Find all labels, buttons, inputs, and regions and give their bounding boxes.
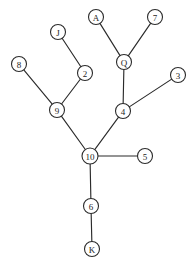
graph-edge-3-4 xyxy=(129,79,171,107)
graph-node-6[interactable]: 6 xyxy=(84,199,99,214)
graph-edge-4-10 xyxy=(95,117,119,150)
graph-edge-Q-4 xyxy=(123,70,124,104)
graph-edge-J-2 xyxy=(62,38,81,66)
node-label-3: 3 xyxy=(176,71,181,81)
node-label-7: 7 xyxy=(153,13,158,23)
node-label-A: A xyxy=(93,13,100,23)
node-label-10: 10 xyxy=(86,152,96,162)
tree-diagram-canvas: A7JQ823941056K xyxy=(0,0,194,270)
graph-node-9[interactable]: 9 xyxy=(50,103,65,118)
node-label-8: 8 xyxy=(17,60,22,70)
node-label-9: 9 xyxy=(55,106,60,116)
graph-node-2[interactable]: 2 xyxy=(78,66,93,81)
graph-node-J[interactable]: J xyxy=(51,25,66,40)
graph-node-5[interactable]: 5 xyxy=(138,149,153,164)
node-label-Q: Q xyxy=(121,58,128,68)
graph-node-10[interactable]: 10 xyxy=(82,148,98,164)
node-label-5: 5 xyxy=(143,152,148,162)
graph-edge-6-K xyxy=(91,214,92,242)
graph-edge-8-9 xyxy=(24,70,52,104)
graph-edge-9-10 xyxy=(61,116,85,149)
graph-node-Q[interactable]: Q xyxy=(117,55,132,70)
graph-node-3[interactable]: 3 xyxy=(171,68,186,83)
graph-node-A[interactable]: A xyxy=(89,10,104,25)
graph-edge-A-Q xyxy=(100,23,120,55)
graph-edge-10-6 xyxy=(90,164,91,199)
graph-edge-7-Q xyxy=(128,23,151,56)
node-layer: A7JQ823941056K xyxy=(12,10,186,257)
node-label-6: 6 xyxy=(89,202,94,212)
node-label-J: J xyxy=(56,28,60,38)
node-label-4: 4 xyxy=(121,107,126,117)
graph-node-4[interactable]: 4 xyxy=(116,104,131,119)
graph-edge-2-9 xyxy=(62,79,81,104)
graph-node-7[interactable]: 7 xyxy=(148,10,163,25)
graph-node-8[interactable]: 8 xyxy=(12,57,27,72)
graph-svg: A7JQ823941056K xyxy=(0,0,194,270)
node-label-K: K xyxy=(89,245,96,255)
node-label-2: 2 xyxy=(83,69,88,79)
graph-node-K[interactable]: K xyxy=(85,242,100,257)
